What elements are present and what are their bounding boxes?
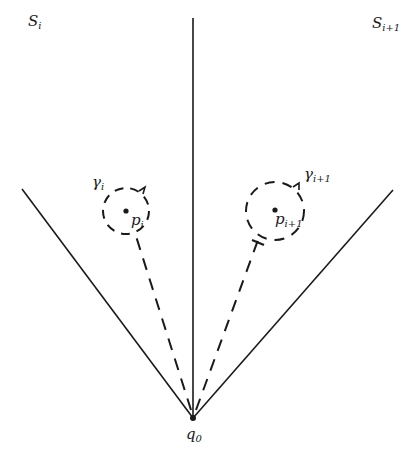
label-base: q bbox=[186, 425, 196, 443]
label-gamma-left: γi bbox=[92, 175, 104, 192]
left-loop-arrow-icon bbox=[139, 187, 145, 194]
label-sub: 0 bbox=[196, 433, 202, 444]
label-sub: i+1 bbox=[313, 173, 331, 184]
label-base: γ bbox=[92, 173, 101, 191]
diagram-canvas: Si Si+1 γi γi+1 pi pi+1 q0 bbox=[0, 0, 412, 458]
label-base: γ bbox=[304, 165, 313, 183]
label-base: S bbox=[372, 14, 382, 32]
label-base: p bbox=[275, 210, 285, 228]
label-gamma-right: γi+1 bbox=[304, 167, 331, 184]
label-sub: i bbox=[38, 20, 41, 31]
label-origin: q0 bbox=[186, 427, 202, 444]
left-point-dot bbox=[123, 208, 128, 213]
label-base: S bbox=[28, 12, 38, 30]
label-sub: i bbox=[141, 219, 144, 230]
diagram-svg bbox=[0, 0, 412, 458]
label-sub: i+1 bbox=[382, 22, 400, 33]
right-path-endcap bbox=[252, 240, 264, 245]
label-sub: i bbox=[101, 181, 104, 192]
label-sector-right: Si+1 bbox=[372, 16, 400, 33]
left-boundary-ray bbox=[22, 189, 193, 418]
right-loop-arrow-icon bbox=[293, 183, 299, 190]
label-sector-left: Si bbox=[28, 14, 41, 31]
label-sub: i+1 bbox=[285, 218, 303, 229]
left-dashed-path bbox=[135, 233, 191, 410]
label-base: p bbox=[131, 211, 141, 229]
label-point-left: pi bbox=[131, 213, 144, 230]
label-point-right: pi+1 bbox=[275, 212, 303, 229]
right-dashed-path bbox=[196, 240, 258, 410]
origin-point-dot bbox=[190, 415, 196, 421]
